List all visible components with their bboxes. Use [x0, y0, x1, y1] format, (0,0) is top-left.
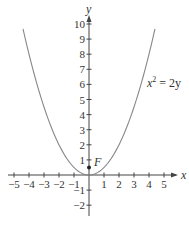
y-axis-arrow-icon — [87, 15, 92, 22]
x-tick-label: −2 — [53, 178, 65, 190]
focus-point — [87, 165, 91, 169]
y-tick-label: 6 — [80, 78, 86, 90]
x-tick-label: 1 — [101, 178, 107, 190]
parabola-chart: −5−4−3−2−112345 10987654321−1−2 F x y x2… — [0, 0, 189, 225]
x-tick-label: −5 — [8, 178, 20, 190]
y-tick-label: 1 — [80, 154, 86, 166]
equation-rest: = 2y — [156, 76, 181, 90]
x-tick-label: −4 — [23, 178, 35, 190]
x-axis-label: x — [180, 168, 187, 182]
x-axis-arrow-icon — [171, 173, 178, 178]
equation-label: x2 = 2y — [146, 75, 181, 90]
focus-label: F — [93, 155, 102, 169]
y-tick-label: −2 — [73, 199, 85, 211]
y-tick-label: 3 — [80, 124, 86, 136]
x-tick-label: 2 — [116, 178, 122, 190]
y-tick-label: 9 — [80, 33, 86, 45]
x-tick-label: 3 — [131, 178, 137, 190]
x-tick-label: −3 — [38, 178, 50, 190]
y-tick-label: 2 — [80, 139, 86, 151]
y-tick-label: 8 — [80, 48, 86, 60]
y-tick-label: 4 — [80, 109, 86, 121]
y-tick-label: 7 — [80, 63, 86, 75]
y-tick-label: 10 — [74, 18, 86, 30]
y-tick-label: −1 — [73, 184, 85, 196]
x-tick-label: 5 — [161, 178, 167, 190]
x-tick-label: 4 — [146, 178, 152, 190]
y-axis-label: y — [85, 2, 92, 16]
y-tick-label: 5 — [80, 94, 86, 106]
